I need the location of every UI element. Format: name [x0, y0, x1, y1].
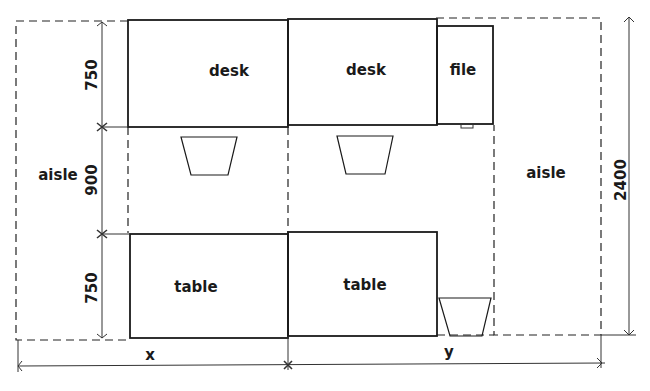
chair-right-icon	[337, 136, 393, 174]
dimension-top-750: 750	[83, 59, 101, 90]
chair-left-icon	[181, 137, 237, 175]
chair-bottom-icon	[439, 298, 491, 336]
dimension-y-label: y	[444, 343, 454, 361]
file-label: file	[450, 61, 476, 79]
vertical-dimension-left	[97, 22, 130, 338]
dimension-x-label: x	[145, 346, 155, 364]
aisle-right-label: aisle	[526, 164, 566, 182]
dimension-bottom-750: 750	[83, 272, 101, 303]
dimension-total-2400: 2400	[612, 159, 630, 201]
dimension-middle-900: 900	[83, 164, 101, 195]
table-right-label: table	[343, 276, 386, 294]
office-layout-diagram: desk desk file table table aisle aisle 7…	[0, 0, 650, 391]
desk-left	[128, 20, 288, 127]
desk-right-label: desk	[346, 61, 387, 79]
desk-left-label: desk	[209, 62, 250, 80]
aisle-left-label: aisle	[38, 166, 78, 184]
table-left-label: table	[174, 278, 217, 296]
